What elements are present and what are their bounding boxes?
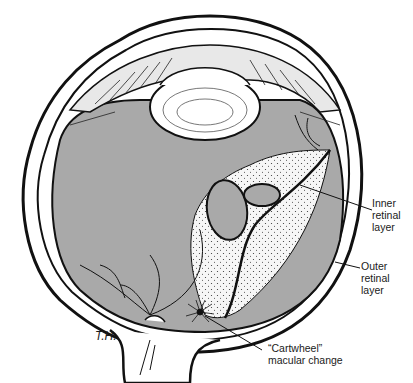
label-inner-retinal-layer: Inner retinal layer [372, 197, 401, 233]
label-line: Inner [372, 197, 401, 209]
eye-illustration: Inner retinal layer Outer retinal layer … [0, 0, 413, 383]
label-outer-retinal-layer: Outer retinal layer [361, 260, 390, 296]
label-line: “Cartwheel” [268, 342, 343, 354]
retinal-hole-2 [244, 184, 280, 206]
label-line: retinal [372, 209, 401, 221]
label-line: retinal [361, 272, 390, 284]
label-line: layer [361, 284, 390, 296]
label-cartwheel-macular-change: “Cartwheel” macular change [268, 342, 343, 366]
eye-cross-section-drawing [0, 0, 413, 383]
artist-signature: T.H. [95, 330, 117, 342]
label-line: macular change [268, 354, 343, 366]
label-line: Outer [361, 260, 390, 272]
label-line: layer [372, 221, 401, 233]
